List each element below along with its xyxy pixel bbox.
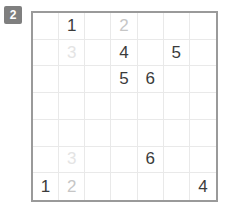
puzzle-container: 2 123455636124 [0, 0, 228, 211]
grid-cell[interactable] [111, 120, 137, 147]
grid-cell[interactable] [59, 120, 85, 147]
grid-cell[interactable] [138, 173, 164, 200]
grid-cell-value: 2 [67, 178, 76, 196]
grid-cell[interactable] [85, 120, 111, 147]
grid-cell[interactable] [33, 13, 59, 40]
grid-cell[interactable] [33, 40, 59, 67]
puzzle-grid-border: 123455636124 [31, 11, 218, 202]
grid-cell-value: 5 [119, 70, 128, 88]
grid-cell[interactable] [190, 40, 216, 67]
grid-cell[interactable] [190, 120, 216, 147]
grid-cell[interactable] [138, 13, 164, 40]
grid-cell[interactable] [138, 40, 164, 67]
grid-cell[interactable]: 5 [164, 40, 190, 67]
grid-cell[interactable]: 1 [59, 13, 85, 40]
grid-cell-value: 2 [119, 17, 128, 35]
grid-cell[interactable]: 3 [59, 40, 85, 67]
grid-cell[interactable] [164, 147, 190, 174]
grid-cell[interactable] [164, 66, 190, 93]
grid-cell-value: 1 [67, 17, 76, 35]
grid-cell[interactable] [85, 13, 111, 40]
grid-cell[interactable]: 4 [111, 40, 137, 67]
grid-cell[interactable] [111, 147, 137, 174]
grid-cell[interactable] [190, 66, 216, 93]
grid-cell[interactable] [59, 93, 85, 120]
grid-cell-value: 6 [145, 70, 154, 88]
grid-cell[interactable] [164, 120, 190, 147]
grid-cell[interactable] [33, 147, 59, 174]
grid-cell[interactable] [59, 66, 85, 93]
grid-cell[interactable] [190, 13, 216, 40]
grid-cell-value: 5 [172, 44, 181, 62]
grid-cell[interactable] [85, 40, 111, 67]
grid-cell[interactable] [33, 93, 59, 120]
grid-cell[interactable]: 4 [190, 173, 216, 200]
grid-cell[interactable] [85, 93, 111, 120]
grid-cell[interactable] [33, 120, 59, 147]
grid-cell[interactable] [85, 147, 111, 174]
grid-cell[interactable] [111, 173, 137, 200]
grid-cell[interactable]: 2 [111, 13, 137, 40]
grid-cell[interactable]: 6 [138, 66, 164, 93]
grid-cell[interactable]: 5 [111, 66, 137, 93]
grid-cell[interactable]: 2 [59, 173, 85, 200]
grid-cell[interactable] [164, 93, 190, 120]
puzzle-grid[interactable]: 123455636124 [33, 13, 216, 200]
grid-cell-value: 6 [145, 150, 154, 168]
grid-cell-value: 4 [119, 44, 128, 62]
puzzle-index-badge: 2 [4, 6, 22, 24]
grid-cell[interactable] [85, 173, 111, 200]
grid-cell[interactable] [111, 93, 137, 120]
grid-cell[interactable] [138, 93, 164, 120]
grid-cell[interactable]: 6 [138, 147, 164, 174]
grid-cell-value: 1 [41, 178, 50, 196]
grid-cell-value: 3 [67, 44, 76, 62]
grid-cell[interactable]: 1 [33, 173, 59, 200]
grid-cell[interactable]: 3 [59, 147, 85, 174]
grid-cell[interactable] [138, 120, 164, 147]
grid-cell[interactable] [164, 13, 190, 40]
grid-cell[interactable] [33, 66, 59, 93]
grid-cell-value: 4 [198, 178, 207, 196]
grid-cell[interactable] [85, 66, 111, 93]
grid-cell-value: 3 [67, 150, 76, 168]
grid-cell[interactable] [164, 173, 190, 200]
grid-cell[interactable] [190, 93, 216, 120]
grid-cell[interactable] [190, 147, 216, 174]
